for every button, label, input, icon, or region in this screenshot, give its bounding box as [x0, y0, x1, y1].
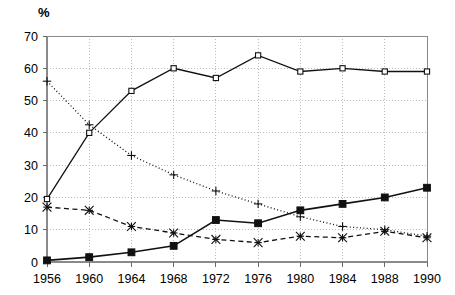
x-tick-label: 1984	[329, 272, 357, 286]
series-line	[47, 55, 427, 199]
series-series-4	[44, 184, 431, 263]
data-point-marker	[339, 200, 346, 207]
data-point-marker	[424, 69, 429, 74]
data-point-marker	[256, 53, 261, 58]
data-point-marker	[298, 69, 303, 74]
data-point-marker	[381, 194, 388, 201]
y-axis-unit-label: %	[38, 5, 50, 20]
data-point-marker	[128, 249, 135, 256]
series-series-1	[44, 53, 429, 202]
x-tick-label: 1972	[202, 272, 230, 286]
x-tick-label: 1956	[33, 272, 61, 286]
line-chart: 010203040506070 195619601964196819721976…	[0, 0, 455, 295]
x-tick-label: 1990	[413, 272, 441, 286]
data-point-marker	[86, 254, 93, 261]
x-tick-label: 1980	[286, 272, 314, 286]
data-point-marker	[87, 130, 92, 135]
x-tick-label: 1968	[160, 272, 188, 286]
data-point-marker	[424, 184, 431, 191]
x-tick-label: 1988	[371, 272, 399, 286]
data-point-marker	[213, 75, 218, 80]
data-point-marker	[297, 207, 304, 214]
data-point-marker	[44, 257, 51, 264]
x-axis-tick-labels: 1956196019641968197219761980198419881990	[33, 272, 441, 286]
data-point-marker	[171, 66, 176, 71]
chart-container: 010203040506070 195619601964196819721976…	[0, 0, 455, 295]
data-point-marker	[129, 88, 134, 93]
y-tick-label: 20	[24, 191, 38, 205]
series-line	[47, 188, 427, 261]
series-line	[47, 207, 427, 243]
y-tick-label: 0	[31, 256, 38, 270]
data-point-marker	[212, 217, 219, 224]
data-point-marker	[340, 66, 345, 71]
y-tick-label: 40	[24, 126, 38, 140]
y-tick-label: 70	[24, 30, 38, 44]
y-tick-label: 50	[24, 94, 38, 108]
data-point-marker	[170, 242, 177, 249]
y-tick-label: 30	[24, 159, 38, 173]
series-series-2	[43, 77, 431, 240]
data-point-marker	[255, 220, 262, 227]
y-axis-tick-labels: 010203040506070	[24, 30, 38, 270]
series-series-3	[43, 203, 432, 247]
x-tick-label: 1960	[75, 272, 103, 286]
x-tick-label: 1976	[244, 272, 272, 286]
y-tick-label: 60	[24, 62, 38, 76]
y-tick-label: 10	[24, 223, 38, 237]
series-line	[47, 81, 427, 236]
data-series-layer	[43, 53, 432, 264]
data-point-marker	[382, 69, 387, 74]
x-tick-label: 1964	[118, 272, 146, 286]
data-point-marker	[44, 196, 49, 201]
